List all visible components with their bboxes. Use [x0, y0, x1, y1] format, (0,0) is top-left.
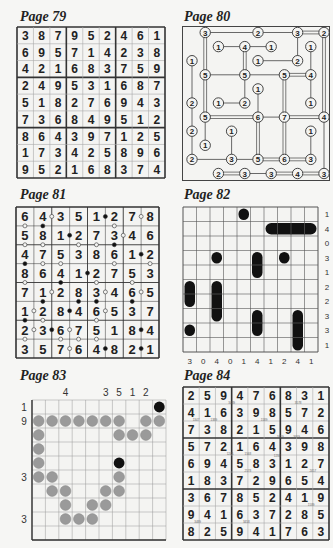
svg-text:5: 5	[203, 113, 208, 122]
sudoku-cell: 5	[204, 389, 211, 403]
column-clue: 5	[116, 387, 122, 398]
kropki-cell: 2	[39, 304, 46, 319]
white-dot	[59, 337, 63, 341]
sudoku-cell: 6	[104, 96, 111, 110]
gray-circle	[74, 416, 85, 427]
svg-text:3: 3	[203, 29, 208, 38]
gray-circle	[114, 486, 125, 497]
sudoku-cell: 5	[88, 29, 95, 43]
kropki-cell: 6	[75, 342, 82, 357]
sudoku-cell: 5	[285, 406, 292, 420]
kropki-cell: 1	[111, 323, 118, 338]
svg-text:2: 2	[322, 29, 327, 38]
sudoku-cell: 7	[55, 29, 62, 43]
island-node: 1	[266, 41, 276, 51]
cage-clue: 3578	[295, 401, 302, 405]
sudoku-cell: 6	[269, 389, 276, 403]
sudoku-cell: 7	[137, 163, 144, 177]
black-dot	[130, 299, 134, 303]
sudoku-cell: 1	[236, 440, 243, 454]
kropki-cell: 6	[111, 247, 118, 262]
kropki-cell: 6	[21, 209, 28, 224]
sudoku-cell: 8	[285, 389, 292, 403]
cage-clue: 1347	[193, 418, 200, 422]
island-node: 5	[253, 154, 263, 164]
kropki-cell: 1	[21, 304, 28, 319]
gray-circle	[47, 472, 58, 483]
sudoku-cell: 4	[71, 146, 78, 160]
sudoku-cell: 8	[318, 440, 325, 454]
black-dot	[139, 328, 143, 332]
kropki-cell: 3	[57, 209, 64, 224]
sudoku-cell: 3	[137, 46, 144, 60]
kropki-cell: 2	[93, 266, 100, 281]
sudoku-cell: 9	[301, 440, 308, 454]
cage-clue: 2457	[309, 469, 316, 473]
svg-text:1: 1	[229, 127, 234, 136]
svg-text:6: 6	[256, 113, 261, 122]
sudoku-cell: 1	[71, 163, 78, 177]
gray-circle	[127, 430, 138, 441]
island-node: 2	[319, 27, 329, 37]
sudoku-cell: 9	[104, 113, 111, 127]
svg-text:1: 1	[216, 43, 221, 52]
kropki-cell: 1	[75, 266, 82, 281]
ship	[212, 281, 223, 322]
sudoku-cell: 8	[188, 525, 195, 539]
svg-text:1: 1	[256, 57, 261, 66]
sudoku-cell: 1	[88, 46, 95, 60]
gray-circle	[33, 444, 44, 455]
black-circle	[154, 402, 165, 413]
sudoku-cell: 6	[121, 79, 128, 93]
sudoku-cell: 1	[55, 62, 62, 76]
kropki-cell: 7	[57, 342, 64, 357]
svg-text:4: 4	[295, 170, 300, 179]
sudoku-cell: 5	[253, 491, 260, 505]
sudoku-cell: 5	[104, 146, 111, 160]
black-dot	[94, 299, 98, 303]
cage-clue: 1568	[245, 452, 252, 456]
sudoku-cell: 9	[22, 163, 29, 177]
gray-circle	[60, 514, 71, 525]
sudoku-cell: 8	[204, 474, 211, 488]
sudoku-cell: 4	[137, 96, 144, 110]
gray-circle	[100, 500, 111, 511]
kropki-cell: 6	[39, 266, 46, 281]
column-clue: 3	[188, 357, 193, 366]
svg-text:5: 5	[243, 71, 248, 80]
svg-text:1: 1	[269, 43, 274, 52]
column-clue: 4	[255, 357, 260, 366]
kropki-cell: 8	[57, 304, 64, 319]
gray-circle	[141, 430, 152, 441]
sudoku-cell: 9	[269, 474, 276, 488]
sudoku-cell: 7	[220, 491, 227, 505]
kropki-cell: 8	[129, 323, 136, 338]
svg-text:7: 7	[282, 113, 287, 122]
sudoku-cell: 8	[55, 96, 62, 110]
hashi-grid-page-80: 32321411112555412121567421112356323343	[182, 26, 330, 181]
sudoku-cell: 7	[22, 113, 29, 127]
column-clue: 0	[201, 357, 206, 366]
white-dot	[41, 262, 45, 266]
white-dot	[32, 309, 36, 313]
kropki-cell: 2	[111, 209, 118, 224]
column-clue: 1	[269, 357, 274, 366]
kropki-cell: 2	[146, 247, 153, 262]
island-node: 3	[226, 154, 236, 164]
black-dot	[77, 299, 81, 303]
svg-text:4: 4	[243, 43, 248, 52]
island-node: 1	[253, 84, 263, 94]
sudoku-cell: 7	[188, 423, 195, 437]
black-dot	[59, 281, 63, 285]
white-dot	[139, 290, 143, 294]
svg-text:5: 5	[256, 155, 261, 164]
svg-text:3: 3	[269, 170, 274, 179]
gray-circle	[100, 486, 111, 497]
sudoku-cell: 3	[153, 96, 160, 110]
sudoku-cell: 5	[269, 423, 276, 437]
sudoku-cell: 6	[55, 113, 62, 127]
row-clue: 3	[21, 472, 27, 483]
sudoku-cell: 4	[253, 525, 260, 539]
svg-text:1: 1	[309, 99, 314, 108]
sudoku-cell: 7	[285, 525, 292, 539]
